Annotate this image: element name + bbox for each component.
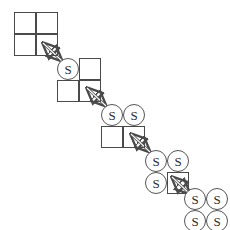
- allele-circle: S: [101, 104, 123, 126]
- grid-cell: [101, 126, 123, 148]
- allele-circle: S: [123, 104, 145, 126]
- stage-node-1: S: [57, 58, 101, 102]
- grid-cell: [36, 12, 58, 34]
- grid-cell: [79, 58, 101, 80]
- stage-node-4: SSSS: [184, 188, 228, 230]
- punnett-grid-0: [14, 12, 58, 56]
- allele-circle: S: [167, 150, 189, 172]
- stage-node-2: SS: [101, 104, 145, 148]
- grid-cell: [14, 34, 36, 56]
- allele-circle: S: [184, 188, 206, 210]
- grid-cell: [79, 80, 101, 102]
- punnett-grid-1: S: [57, 58, 101, 102]
- allele-circle: S: [184, 210, 206, 230]
- punnett-grid-2: SS: [101, 104, 145, 148]
- allele-circle: S: [206, 210, 228, 230]
- allele-circle: S: [145, 172, 167, 194]
- grid-cell: [57, 80, 79, 102]
- grid-cell: [14, 12, 36, 34]
- allele-circle: S: [145, 150, 167, 172]
- grid-cell: [123, 126, 145, 148]
- punnett-grid-3: SSS: [145, 150, 189, 194]
- grid-cell: [36, 34, 58, 56]
- allele-circle: S: [206, 188, 228, 210]
- diagram-canvas: S SS SSS SSSS: [0, 0, 230, 230]
- punnett-grid-4: SSSS: [184, 188, 228, 230]
- stage-node-3: SSS: [145, 150, 189, 194]
- allele-circle: S: [57, 58, 79, 80]
- stage-node-0: [14, 12, 58, 56]
